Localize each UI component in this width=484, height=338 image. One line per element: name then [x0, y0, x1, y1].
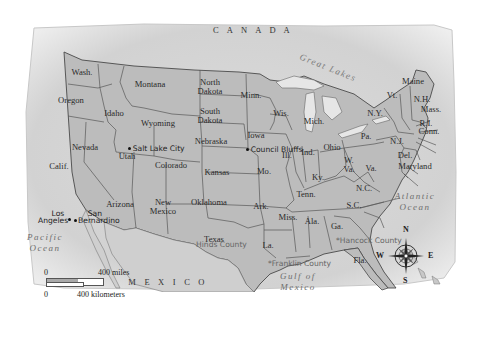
state-label-la: La.	[262, 241, 273, 250]
state-label-kansas: Kansas	[205, 168, 230, 177]
state-label-w-va: W. Va.	[343, 156, 354, 174]
scale-miles-start: 0	[44, 268, 48, 277]
compass-rose: N S E W	[376, 226, 436, 286]
state-label-nh: N.H.	[414, 95, 431, 104]
scale-km-graphic	[46, 282, 84, 287]
state-label-conn: Conn.	[419, 127, 440, 136]
state-label-nc: N.C.	[356, 184, 372, 193]
state-label-ky: Ky.	[312, 173, 324, 182]
state-label-maryland: Maryland	[398, 162, 431, 171]
state-label-maine: Maine	[402, 77, 424, 86]
state-label-ind: Ind.	[301, 148, 315, 157]
state-label-miss: Miss.	[279, 213, 298, 222]
compass-north: N	[403, 225, 409, 234]
state-label-oregon: Oregon	[58, 96, 84, 105]
state-label-fla: Fla.	[353, 256, 366, 265]
scale-bar: 0 400 miles 0 400 kilometers	[22, 268, 132, 308]
state-label-va: Va.	[365, 164, 376, 173]
state-label-ga: Ga.	[331, 222, 343, 231]
state-label-mass: Mass.	[421, 105, 441, 114]
compass-south: S	[403, 276, 407, 285]
state-label-ohio: Ohio	[323, 143, 340, 152]
city-label: Los Angeles	[38, 209, 68, 226]
city-label: Salt Lake City	[133, 144, 185, 153]
state-label-mo: Mo.	[257, 167, 271, 176]
state-label-nj: N.J.	[390, 137, 404, 146]
label-mexico: M E X I C O	[128, 278, 207, 287]
label-atlantic-ocean: Atlantic Ocean	[395, 191, 436, 214]
city-dot-icon	[128, 147, 131, 150]
state-label-minn: Minn.	[241, 91, 262, 100]
state-label-ala: Ala.	[305, 217, 320, 226]
state-label-calif: Calif.	[49, 162, 68, 171]
state-label-del: Del.	[398, 151, 413, 160]
state-label-nebraska: Nebraska	[195, 137, 227, 146]
state-label-wis: Wis.	[273, 109, 289, 118]
city-label: Council Bluffs	[251, 145, 303, 154]
state-label-idaho: Idaho	[104, 109, 124, 118]
city-dot-icon-los-angeles	[68, 218, 71, 221]
city-los-angeles: Los Angeles	[38, 202, 68, 232]
state-label-mich: Mich.	[304, 117, 324, 126]
city-dot-icon-san-bernardino	[74, 219, 77, 222]
state-label-wash: Wash.	[71, 68, 92, 77]
city-salt-lake-city: Salt Lake City	[118, 137, 185, 160]
county-hinds: Hinds County	[196, 241, 247, 249]
state-label-ark: Ark.	[253, 202, 269, 211]
state-label-ny: N.Y.	[367, 109, 383, 118]
city-dot-icon	[246, 148, 249, 151]
label-canada: C A N A D A	[213, 26, 293, 35]
state-label-tenn: Tenn.	[296, 190, 315, 199]
state-label-montana: Montana	[135, 80, 166, 89]
label-gulf-of-mexico: Gulf of Mexico	[280, 271, 316, 294]
scale-miles-end: 400 miles	[98, 268, 129, 277]
label-pacific-ocean: Pacific Ocean	[27, 232, 63, 255]
city-council-bluffs: Council Bluffs	[236, 138, 302, 161]
state-label-pa: Pa.	[361, 132, 372, 141]
state-label-oklahoma: Oklahoma	[191, 198, 227, 207]
state-label-south-dakota: South Dakota	[198, 107, 223, 125]
city-label: San Bernardino	[78, 209, 120, 226]
compass-east: E	[428, 251, 433, 260]
state-label-sc: S.C.	[347, 201, 362, 210]
state-label-wyoming: Wyoming	[141, 119, 175, 128]
compass-west: W	[376, 251, 384, 260]
city-san-bernardino: San Bernardino	[78, 202, 120, 232]
state-label-vt: Vt.	[387, 91, 398, 100]
state-label-new-mexico: New Mexico	[150, 198, 176, 216]
county-franklin: *Franklin County	[268, 260, 331, 268]
state-label-colorado: Colorado	[155, 161, 187, 170]
scale-km-end: 400 kilometers	[77, 290, 125, 299]
state-label-north-dakota: North Dakota	[198, 78, 223, 96]
state-label-nevada: Nevada	[72, 143, 98, 152]
scale-km-start: 0	[44, 290, 48, 299]
